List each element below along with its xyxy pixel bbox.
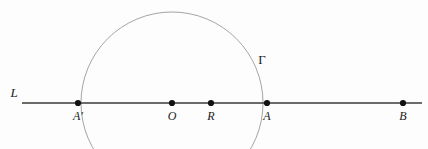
point-r (208, 100, 214, 106)
point-a (264, 100, 270, 106)
point-b (400, 100, 406, 106)
circle-gamma-label: Γ (258, 52, 266, 67)
point-o (169, 100, 175, 106)
point-a-label: A (262, 109, 271, 123)
line-L-label: L (9, 85, 17, 100)
geometry-figure: L Γ A′ O R A B (0, 0, 428, 149)
point-b-label: B (399, 109, 407, 123)
point-a-prime-label: A′ (72, 109, 83, 123)
point-r-label: R (206, 109, 215, 123)
point-a-prime (75, 100, 81, 106)
point-o-label: O (168, 109, 177, 123)
